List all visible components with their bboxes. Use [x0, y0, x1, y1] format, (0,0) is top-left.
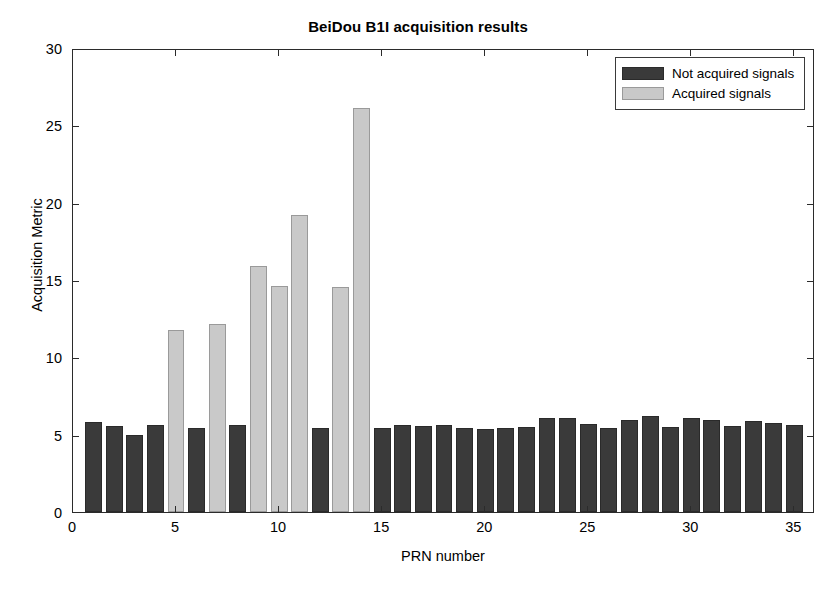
legend-swatch-acquired-icon — [622, 87, 664, 100]
x-tick-15 — [381, 506, 382, 513]
bar-prn-6 — [188, 428, 205, 512]
x-tick-top-10 — [278, 49, 279, 56]
y-tick-right-20 — [807, 204, 814, 205]
bar-prn-26 — [600, 428, 617, 512]
y-tick-right-25 — [807, 126, 814, 127]
bar-prn-23 — [539, 418, 556, 512]
x-axis-title: PRN number — [72, 548, 814, 564]
bar-prn-16 — [394, 425, 411, 512]
y-tick-right-5 — [807, 436, 814, 437]
x-tick-30 — [690, 506, 691, 513]
bar-prn-28 — [642, 416, 659, 512]
y-tick-label-30: 30 — [0, 41, 62, 57]
bar-prn-7 — [209, 324, 226, 512]
x-tick-label-20: 20 — [476, 519, 492, 535]
y-tick-label-25: 25 — [0, 118, 62, 134]
x-tick-top-30 — [690, 49, 691, 56]
figure: BeiDou B1I acquisition results Acquisiti… — [0, 0, 836, 601]
y-tick-10 — [72, 358, 79, 359]
legend-swatch-not-acquired-icon — [622, 67, 664, 80]
legend: Not acquired signals Acquired signals — [615, 57, 805, 110]
bar-prn-35 — [786, 425, 803, 512]
y-tick-label-10: 10 — [0, 350, 62, 366]
bar-prn-27 — [621, 420, 638, 512]
bar-prn-19 — [456, 428, 473, 512]
y-tick-label-20: 20 — [0, 196, 62, 212]
bar-prn-18 — [436, 425, 453, 512]
bar-prn-33 — [745, 421, 762, 512]
y-axis-title: Acquisition Metric — [29, 135, 45, 375]
bar-prn-22 — [518, 427, 535, 512]
bars-layer — [73, 50, 813, 512]
bar-prn-10 — [271, 286, 288, 512]
bar-prn-17 — [415, 426, 432, 512]
bar-prn-15 — [374, 428, 391, 512]
x-tick-top-15 — [381, 49, 382, 56]
x-tick-label-30: 30 — [682, 519, 698, 535]
x-tick-20 — [484, 506, 485, 513]
x-tick-top-0 — [72, 49, 73, 56]
plot-area — [72, 49, 814, 513]
y-tick-label-0: 0 — [0, 505, 62, 521]
bar-prn-4 — [147, 425, 164, 512]
bar-prn-14 — [353, 108, 370, 512]
y-tick-25 — [72, 126, 79, 127]
x-tick-10 — [278, 506, 279, 513]
y-tick-30 — [72, 49, 79, 50]
bar-prn-1 — [85, 422, 102, 512]
bar-prn-30 — [683, 418, 700, 512]
x-tick-label-25: 25 — [579, 519, 595, 535]
x-tick-5 — [175, 506, 176, 513]
bar-prn-3 — [126, 435, 143, 512]
y-tick-label-15: 15 — [0, 273, 62, 289]
x-tick-35 — [793, 506, 794, 513]
legend-item-not-acquired: Not acquired signals — [622, 63, 798, 83]
x-tick-top-20 — [484, 49, 485, 56]
y-tick-label-5: 5 — [0, 428, 62, 444]
y-tick-right-15 — [807, 281, 814, 282]
x-tick-label-10: 10 — [270, 519, 286, 535]
x-tick-label-15: 15 — [373, 519, 389, 535]
x-tick-top-5 — [175, 49, 176, 56]
bar-prn-5 — [168, 330, 185, 512]
y-tick-right-10 — [807, 358, 814, 359]
x-tick-label-0: 0 — [68, 519, 76, 535]
x-tick-label-35: 35 — [785, 519, 801, 535]
bar-prn-21 — [497, 428, 514, 512]
y-tick-20 — [72, 204, 79, 205]
x-tick-label-5: 5 — [171, 519, 179, 535]
bar-prn-25 — [580, 424, 597, 512]
bar-prn-31 — [703, 420, 720, 512]
legend-item-acquired: Acquired signals — [622, 83, 798, 103]
bar-prn-9 — [250, 266, 267, 512]
bar-prn-32 — [724, 426, 741, 512]
bar-prn-20 — [477, 429, 494, 512]
bar-prn-24 — [559, 418, 576, 512]
legend-label-not-acquired: Not acquired signals — [672, 66, 794, 81]
y-tick-5 — [72, 436, 79, 437]
y-tick-15 — [72, 281, 79, 282]
x-tick-top-25 — [587, 49, 588, 56]
x-tick-0 — [72, 506, 73, 513]
legend-label-acquired: Acquired signals — [672, 86, 771, 101]
bar-prn-29 — [662, 427, 679, 512]
bar-prn-12 — [312, 428, 329, 512]
bar-prn-8 — [229, 425, 246, 512]
bar-prn-11 — [291, 215, 308, 512]
y-tick-right-30 — [807, 49, 814, 50]
bar-prn-13 — [332, 287, 349, 512]
x-tick-top-35 — [793, 49, 794, 56]
bar-prn-2 — [106, 426, 123, 512]
chart-title: BeiDou B1I acquisition results — [0, 18, 836, 35]
bar-prn-34 — [765, 423, 782, 512]
x-tick-25 — [587, 506, 588, 513]
